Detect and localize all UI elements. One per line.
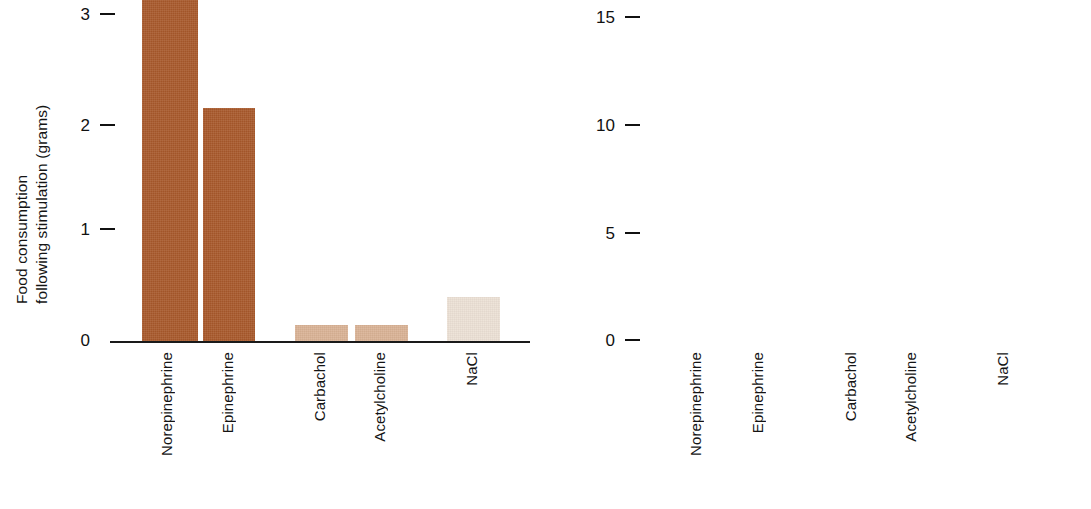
plot-area-food-consumption xyxy=(110,0,530,343)
y-tick-label-2: 2 xyxy=(60,116,90,136)
x-label-epinephrine: Epinephrine xyxy=(749,352,766,433)
y-tick-label-5: 5 xyxy=(585,224,615,244)
x-label-nacl: NaCl xyxy=(994,352,1011,386)
x-label-acetylcholine: Acetylcholine xyxy=(902,352,919,442)
x-label-acetylcholine: Acetylcholine xyxy=(371,352,388,442)
panel-food-consumption: Food consumption following stimulation (… xyxy=(0,0,545,509)
figure-two-panel-bar-charts: Food consumption following stimulation (… xyxy=(0,0,1091,509)
y-axis-title-line-2: following stimulation (grams) xyxy=(33,105,50,304)
y-tick-dash-0 xyxy=(625,339,640,341)
bar-nacl-food xyxy=(447,297,500,341)
bar-carbachol-food xyxy=(295,325,348,341)
panel-water-consumption: Water consumption following stimulation … xyxy=(545,0,1091,509)
y-tick-label-10: 10 xyxy=(585,116,615,136)
y-axis-title-line-1: Food consumption xyxy=(13,175,30,304)
bar-epinephrine-food xyxy=(203,108,255,341)
bar-acetylcholine-food xyxy=(355,325,408,341)
x-label-carbachol: Carbachol xyxy=(311,352,328,421)
y-tick-dash-10 xyxy=(625,124,640,126)
x-label-norepinephrine: Norepinephrine xyxy=(687,352,704,456)
x-label-epinephrine: Epinephrine xyxy=(219,352,236,433)
y-tick-label-3: 3 xyxy=(60,5,90,25)
y-tick-label-0: 0 xyxy=(585,331,615,351)
x-label-nacl: NaCl xyxy=(463,352,480,386)
x-axis-baseline xyxy=(110,341,530,344)
x-label-carbachol: Carbachol xyxy=(842,352,859,421)
y-tick-label-15: 15 xyxy=(585,8,615,28)
y-tick-label-1: 1 xyxy=(60,220,90,240)
y-axis-title-food-consumption: Food consumption following stimulation (… xyxy=(12,4,52,304)
y-tick-dash-5 xyxy=(625,232,640,234)
x-label-norepinephrine: Norepinephrine xyxy=(158,352,175,456)
bar-norepinephrine-food xyxy=(142,0,198,341)
y-tick-dash-15 xyxy=(625,16,640,18)
y-tick-label-0: 0 xyxy=(60,331,90,351)
